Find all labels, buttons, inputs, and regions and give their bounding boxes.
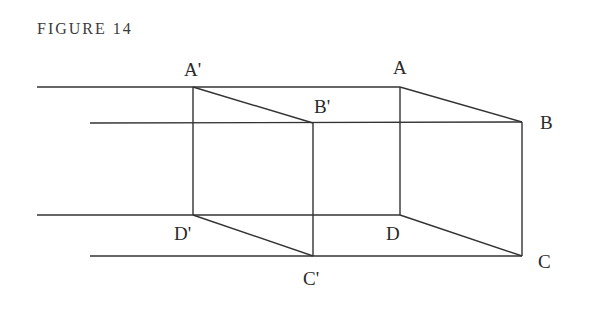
diagram-lines [37,87,522,256]
edge-d-c [400,215,522,256]
edge-d-prime-c-prime [193,215,313,256]
label-a: A [393,57,407,78]
label-a-prime: A' [184,59,201,80]
label-b: B [540,112,553,133]
edge-a-prime-b-prime [193,87,313,123]
label-b-prime: B' [314,96,330,117]
label-c: C [538,251,551,272]
projection-line-b [90,122,522,123]
edge-a-b [400,87,522,122]
label-d-prime: D' [174,223,191,244]
label-c-prime: C' [303,268,319,289]
label-d: D [386,223,400,244]
vertex-labels: A' B' C' D' A B C D [174,57,553,289]
projection-diagram: A' B' C' D' A B C D [0,0,590,311]
